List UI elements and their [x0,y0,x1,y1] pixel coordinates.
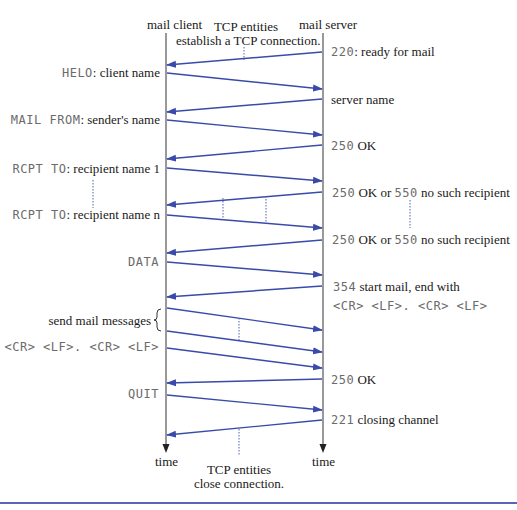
message-arrow-to-server [167,262,322,275]
reply-text: : ready for mail [354,44,435,59]
tcp-close-note-line1: TCP entities [179,463,299,477]
message-arrow-to-server [167,395,322,410]
server-reply-rcpt-1: 250 OK or 550 no such recipient [332,186,510,199]
reply-code: 354 [333,280,356,294]
server-reply-rcpt-n: 250 OK or 550 no such recipient [332,233,510,246]
server-time-label: time [312,455,335,468]
client-time-arrow-icon [163,444,170,453]
server-reply-221: 221 closing channel [331,413,439,426]
client-msg-data: DATA [128,255,159,268]
cmd-code: DATA [128,255,159,269]
cmd-text: recipient name 1 [70,161,160,176]
smtp-sequence-diagram: mail client mail server TCP entities est… [0,0,517,510]
tcp-close-note: TCP entities close connection. [179,463,299,491]
message-arrow-to-server [167,120,322,135]
message-arrow-to-client [167,240,322,253]
cmd-code: <CR> <LF>. <CR> <LF> [5,340,160,354]
server-time-arrow-icon [320,444,327,453]
reply-code: 250 [332,233,355,247]
cmd-code: RCPT TO [12,162,66,176]
tcp-open-note-line2: establish a TCP connection. [176,34,316,48]
message-arrow-to-server [167,348,322,368]
tcp-open-note-line1: TCP entities [176,20,316,34]
reply-code: 220 [331,45,354,59]
client-msg-helo: HELO: client name [62,66,160,79]
message-arrow-to-client [167,420,322,435]
client-msg-mail-from: MAIL FROM: sender's name [11,113,160,126]
reply-text-alt: no such recipient [418,232,510,247]
server-reply-220: 220: ready for mail [331,45,435,58]
cmd-text: recipient name n [70,207,160,222]
client-msg-quit: QUIT [128,387,159,400]
reply-code-alt: 550 [395,233,418,247]
message-arrow-to-server [167,308,322,330]
server-reply-250-ok-1: 250 OK [331,139,376,152]
reply-code: 250 [332,186,355,200]
reply-code: 250 [331,373,354,387]
reply-text: OK [354,138,376,153]
tcp-close-note-line2: close connection. [179,477,299,491]
send-messages-brace-icon [154,309,161,331]
reply-text: OK or [355,185,394,200]
reply-text: server name [331,92,394,107]
message-arrow-to-client [167,286,322,297]
message-arrow-to-client [167,145,322,159]
client-msg-end-data: <CR> <LF>. <CR> <LF> [5,340,160,353]
cmd-text: sender's name [84,112,160,127]
message-arrow-to-client [167,99,322,112]
server-reply-354-line2: <CR> <LF>. <CR> <LF> [333,300,488,312]
reply-code-alt: 550 [395,186,418,200]
client-time-label: time [155,455,178,468]
reply-text: closing channel [354,412,438,427]
message-arrow-to-server [167,168,322,181]
server-reply-name: server name [331,93,394,106]
message-arrow-to-client [167,192,322,205]
client-msg-rcpt-1: RCPT TO: recipient name 1 [12,162,160,175]
client-msg-rcpt-n: RCPT TO: recipient name n [12,208,160,221]
reply-code: 221 [331,413,354,427]
cmd-text: send mail messages [48,313,151,328]
cmd-code: QUIT [128,387,159,401]
reply-text: OK or [355,232,394,247]
reply-text: OK [354,372,376,387]
tcp-open-note: TCP entities establish a TCP connection. [176,20,316,48]
server-reply-250-ok-2: 250 OK [331,373,376,386]
message-arrow-to-server [167,73,322,89]
cmd-code: HELO [62,66,93,80]
message-arrow-to-server [167,331,322,352]
message-arrow-to-client [167,379,322,383]
client-msg-send-messages: send mail messages [48,314,151,327]
message-arrow-to-server [167,215,322,228]
reply-code: 250 [331,139,354,153]
reply-text-alt: no such recipient [418,185,510,200]
server-reply-354: 354 start mail, end with [333,280,460,293]
cmd-code: MAIL FROM [11,113,81,127]
reply-text: start mail, end with [356,279,460,294]
cmd-text: client name [96,65,160,80]
message-arrows [167,52,322,435]
cmd-code: RCPT TO [12,208,66,222]
